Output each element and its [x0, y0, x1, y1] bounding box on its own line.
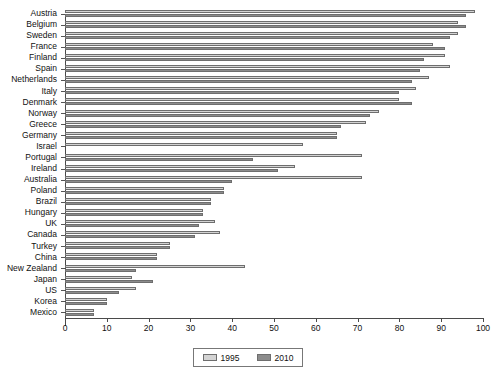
bar-1995 [65, 43, 433, 46]
bar-2010 [65, 224, 199, 227]
bar-1995 [65, 220, 215, 223]
bar-2010 [65, 69, 420, 72]
bar-1995 [65, 121, 366, 124]
bar-1995 [65, 65, 450, 68]
x-axis-tick-label: 90 [436, 323, 445, 333]
category-label: Turkey [0, 242, 57, 251]
bar-group: China [0, 252, 494, 263]
x-axis-tick-label: 10 [102, 323, 111, 333]
bar-group: Poland [0, 185, 494, 196]
bar-2010 [65, 47, 445, 50]
bar-group: Japan [0, 274, 494, 285]
bar-group: Greece [0, 119, 494, 130]
x-axis-tick-label: 80 [395, 323, 404, 333]
bar-1995 [65, 154, 362, 157]
x-axis-tick-label: 50 [269, 323, 278, 333]
bar-1995 [65, 231, 220, 234]
bar-group: Korea [0, 296, 494, 307]
category-label: China [0, 253, 57, 262]
bar-group: Israel [0, 141, 494, 152]
bar-1995 [65, 287, 136, 290]
bar-group: Spain [0, 63, 494, 74]
category-label: Greece [0, 120, 57, 129]
x-axis-tick [149, 318, 150, 322]
bar-2010 [65, 102, 412, 105]
bar-2010 [65, 213, 203, 216]
bar-2010 [65, 313, 94, 316]
category-label: Canada [0, 230, 57, 239]
bar-group: Germany [0, 130, 494, 141]
y-axis-tick [61, 146, 65, 147]
bar-2010 [65, 125, 341, 128]
bar-group: Australia [0, 174, 494, 185]
category-label: Brazil [0, 197, 57, 206]
bar-group: Austria [0, 8, 494, 19]
bar-group: Denmark [0, 97, 494, 108]
category-label: Netherlands [0, 75, 57, 84]
bar-1995 [65, 10, 475, 13]
bar-group: US [0, 285, 494, 296]
bar-1995 [65, 76, 429, 79]
bar-2010 [65, 169, 278, 172]
bar-2010 [65, 136, 337, 139]
bar-rows: AustriaBelgiumSwedenFranceFinlandSpainNe… [0, 8, 494, 318]
x-axis-tick [107, 318, 108, 322]
bar-1995 [65, 110, 379, 113]
bar-1995 [65, 32, 458, 35]
bar-2010 [65, 257, 157, 260]
x-axis-tick [65, 318, 66, 322]
bar-1995 [65, 143, 303, 146]
bar-2010 [65, 191, 224, 194]
bar-1995 [65, 87, 416, 90]
legend-item-1995: 1995 [203, 353, 240, 363]
bar-1995 [65, 253, 157, 256]
chart-title [0, 0, 494, 4]
category-label: Poland [0, 186, 57, 195]
bar-1995 [65, 309, 94, 312]
bar-group: Netherlands [0, 74, 494, 85]
bar-group: New Zealand [0, 263, 494, 274]
x-axis-tick-label: 0 [63, 323, 68, 333]
bar-1995 [65, 165, 295, 168]
bar-2010 [65, 280, 153, 283]
x-axis-tick-label: 30 [186, 323, 195, 333]
category-label: Italy [0, 87, 57, 96]
category-label: US [0, 286, 57, 295]
bar-1995 [65, 54, 445, 57]
bar-2010 [65, 269, 136, 272]
bar-2010 [65, 235, 195, 238]
bar-group: Italy [0, 86, 494, 97]
category-label: Sweden [0, 31, 57, 40]
x-axis-tick-label: 60 [311, 323, 320, 333]
bar-1995 [65, 176, 362, 179]
bar-1995 [65, 242, 170, 245]
x-axis-tick [399, 318, 400, 322]
bar-chart: AustriaBelgiumSwedenFranceFinlandSpainNe… [0, 0, 494, 372]
category-label: Australia [0, 175, 57, 184]
x-axis-tick [441, 318, 442, 322]
bar-group: Belgium [0, 19, 494, 30]
bar-2010 [65, 246, 170, 249]
x-axis-tick-label: 100 [476, 323, 490, 333]
bar-1995 [65, 187, 224, 190]
category-label: UK [0, 219, 57, 228]
bar-1995 [65, 98, 399, 101]
bar-2010 [65, 36, 450, 39]
bar-1995 [65, 21, 458, 24]
category-label: Portugal [0, 153, 57, 162]
bar-1995 [65, 265, 245, 268]
bar-1995 [65, 209, 203, 212]
category-label: Norway [0, 109, 57, 118]
bar-2010 [65, 58, 424, 61]
bar-1995 [65, 298, 107, 301]
x-axis-tick [483, 318, 484, 322]
category-label: Finland [0, 53, 57, 62]
x-axis-tick-label: 70 [353, 323, 362, 333]
category-label: Austria [0, 9, 57, 18]
category-label: Belgium [0, 20, 57, 29]
category-label: Japan [0, 275, 57, 284]
x-axis-tick [358, 318, 359, 322]
bar-2010 [65, 158, 253, 161]
x-axis-tick [274, 318, 275, 322]
bar-group: Brazil [0, 196, 494, 207]
